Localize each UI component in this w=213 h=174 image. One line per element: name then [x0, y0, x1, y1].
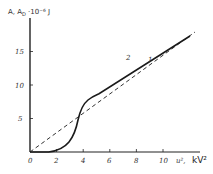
series-2-label: 2 [125, 54, 131, 62]
chart-canvas: 5 10 15 0 2 4 6 8 10 u², kV² A, AD ·10⁻⁶… [0, 0, 213, 174]
series-1-label: 1 [148, 56, 152, 64]
y-tick-label-5: 5 [18, 115, 23, 123]
y-tick-label-15: 15 [15, 48, 24, 56]
series-2-dashed-line [30, 32, 195, 152]
y-axis-title: A, AD ·10⁻⁶ J [8, 8, 50, 17]
x-tick-label-2: 2 [53, 157, 59, 165]
x-tick-label-4: 4 [80, 157, 85, 165]
x-tick-label-0: 0 [28, 157, 33, 165]
x-axis-unit: kV² [192, 155, 207, 165]
x-tick-label-8: 8 [134, 157, 139, 165]
x-tick-label-6: 6 [107, 157, 112, 165]
y-tick-label-10: 10 [15, 82, 24, 90]
x-axis-variable: u², [176, 157, 186, 165]
x-tick-label-10: 10 [159, 157, 168, 165]
